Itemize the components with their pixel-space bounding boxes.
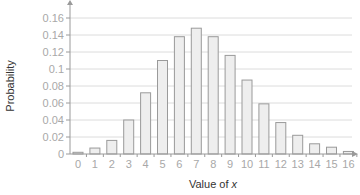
y-axis-arrow-icon (67, 0, 73, 5)
y-tick-label: 0.08 (43, 80, 64, 92)
x-tick-label: 6 (176, 158, 182, 170)
y-tick-label: 0.14 (43, 29, 64, 41)
x-axis-title: Value of x (189, 178, 238, 190)
bar (310, 144, 320, 154)
x-tick-label: 7 (193, 158, 199, 170)
bar (242, 80, 252, 154)
bar (259, 104, 269, 154)
y-tick-label: 0 (58, 148, 64, 160)
y-tick-label: 0.16 (43, 12, 64, 24)
bar (90, 148, 100, 154)
x-tick-label: 11 (258, 158, 269, 170)
x-tick-label: 3 (126, 158, 132, 170)
bar (174, 37, 184, 154)
x-tick-label: 8 (210, 158, 216, 170)
probability-bar-chart: 00.020.040.060.080.10.120.140.1601234567… (0, 0, 360, 195)
x-tick-label: 9 (227, 158, 233, 170)
bar (191, 28, 201, 154)
x-tick-label: 0 (75, 158, 81, 170)
y-tick-label: 0.12 (43, 46, 64, 58)
bar (107, 140, 117, 154)
x-tick-label: 14 (308, 158, 320, 170)
x-tick-label: 16 (342, 158, 354, 170)
bar (124, 120, 134, 154)
bar (276, 123, 286, 154)
bar (208, 37, 218, 154)
x-tick-label: 1 (92, 158, 98, 170)
x-tick-label: 13 (292, 158, 304, 170)
y-tick-label: 0.1 (49, 63, 64, 75)
bar (225, 55, 235, 154)
bar (327, 147, 337, 154)
x-tick-label: 15 (325, 158, 337, 170)
y-tick-label: 0.04 (43, 114, 64, 126)
y-tick-label: 0.06 (43, 97, 64, 109)
bar (141, 93, 151, 154)
bar (158, 61, 168, 155)
x-tick-label: 10 (241, 158, 253, 170)
x-tick-label: 5 (159, 158, 165, 170)
x-tick-label: 12 (275, 158, 287, 170)
bar (293, 135, 303, 154)
y-axis-title: Probability (4, 60, 16, 112)
x-tick-label: 4 (143, 158, 149, 170)
x-tick-label: 2 (109, 158, 115, 170)
chart-canvas: 00.020.040.060.080.10.120.140.1601234567… (0, 0, 360, 195)
y-tick-label: 0.02 (43, 131, 64, 143)
